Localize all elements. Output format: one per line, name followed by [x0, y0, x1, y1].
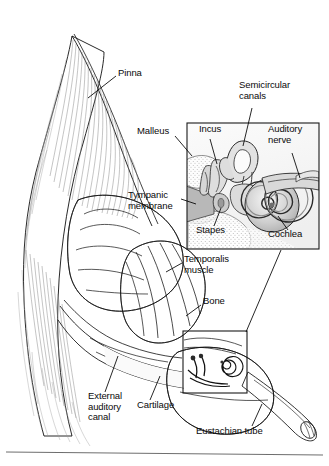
- label-semicircular-canals: Semicircular canals: [239, 80, 290, 101]
- inset-source-box: [183, 331, 247, 393]
- label-bone: Bone: [203, 296, 225, 307]
- label-tympanic-membrane: Tympanic membrane: [128, 190, 173, 211]
- label-malleus: Malleus: [137, 126, 169, 137]
- inset-connector-line: [246, 250, 281, 332]
- label-cartilage: Cartilage: [137, 400, 174, 411]
- fur-texture-lower: [18, 250, 90, 446]
- caption-rule: [6, 452, 323, 455]
- label-stapes: Stapes: [196, 225, 225, 236]
- label-incus: Incus: [199, 124, 221, 135]
- ear-anatomy-figure: Pinna Semicircular canals Malleus Incus …: [0, 0, 329, 466]
- source-box-contents: [184, 338, 243, 387]
- label-cochlea: Cochlea: [268, 229, 302, 240]
- mini-cochlea: [220, 357, 242, 377]
- external-auditory-canal-shape: [58, 300, 184, 388]
- label-auditory-nerve: Auditory nerve: [268, 124, 302, 145]
- label-eustachian-tube: Eustachian tube: [196, 426, 263, 437]
- label-pinna: Pinna: [118, 68, 142, 79]
- label-external-auditory-canal: External auditory canal: [88, 391, 122, 423]
- label-temporalis-muscle: Temporalis muscle: [184, 254, 229, 275]
